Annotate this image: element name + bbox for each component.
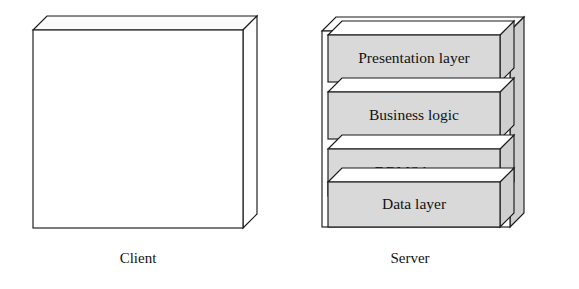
- server-layer-label: Business logic: [369, 106, 459, 123]
- layer-top-face: [328, 21, 514, 35]
- diagram-canvas: Presentation layer Business logic DBMS l…: [0, 0, 579, 289]
- server-layer-presentation[interactable]: Presentation layer: [328, 21, 514, 82]
- server-layer-label: Data layer: [382, 195, 447, 212]
- server-caption: Server: [350, 250, 470, 267]
- client-caption: Client: [78, 250, 198, 267]
- layer-top-face: [328, 78, 514, 92]
- server-layer-label: Presentation layer: [358, 49, 470, 66]
- server-layer-data[interactable]: Data layer: [328, 168, 514, 227]
- layer-top-face: [328, 135, 514, 149]
- server-layer-business-logic[interactable]: Business logic: [328, 78, 514, 139]
- layer-top-face: [328, 168, 514, 182]
- server-block: Presentation layer Business logic DBMS l…: [0, 0, 579, 289]
